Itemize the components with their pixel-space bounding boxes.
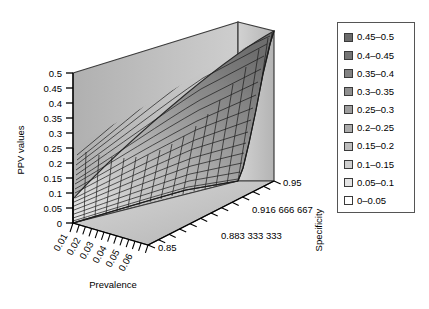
legend-item-label: 0.05–0.1	[357, 178, 394, 188]
legend-swatch-icon	[344, 178, 353, 187]
legend-item[interactable]: 0.25–0.3	[344, 101, 410, 119]
y-tick-label: 0.3	[49, 128, 62, 139]
legend-swatch-icon	[344, 105, 353, 114]
legend-item-label: 0.35–0.4	[357, 69, 394, 79]
z-tick-label: 0.916 666 667	[252, 204, 313, 215]
legend-swatch-icon	[344, 142, 353, 151]
legend-swatch-icon	[344, 160, 353, 169]
legend-swatch-icon	[344, 51, 353, 60]
y-tick-label: 0.35	[44, 113, 63, 124]
y-tick-label: 0.45	[44, 83, 63, 94]
x-axis-title: Prevalence	[89, 279, 137, 290]
y-tick-label: 0.15	[44, 173, 63, 184]
legend-swatch-icon	[344, 87, 353, 96]
y-tick-label: 0.25	[44, 143, 63, 154]
legend-swatch-icon	[344, 69, 353, 78]
legend-item-label: 0.25–0.3	[357, 105, 394, 115]
legend: 0.45–0.5 0.4–0.45 0.35–0.4 0.3–0.35 0.25…	[337, 22, 415, 213]
legend-item-label: 0.4–0.45	[357, 51, 394, 61]
legend-item[interactable]: 0.15–0.2	[344, 137, 410, 155]
chart-page: 0.5 0.45 0.4 0.35 0.3 0.25 0.2 0.15 0.1 …	[0, 0, 429, 309]
legend-item-label: 0.45–0.5	[357, 32, 394, 42]
y-tick-label: 0.4	[49, 98, 62, 109]
legend-item[interactable]: 0.2–0.25	[344, 119, 410, 137]
legend-item[interactable]: 0.05–0.1	[344, 174, 410, 192]
legend-item[interactable]: 0–0.05	[344, 192, 410, 210]
legend-item[interactable]: 0.45–0.5	[344, 28, 410, 46]
y-axis-title: PPV values	[15, 125, 26, 174]
legend-item[interactable]: 0.35–0.4	[344, 64, 410, 82]
legend-item-label: 0.15–0.2	[357, 141, 394, 151]
y-tick-label: 0.2	[49, 158, 62, 169]
legend-item[interactable]: 0.3–0.35	[344, 83, 410, 101]
z-tick-label: 0.95	[283, 177, 302, 188]
y-tick-label: 0.5	[49, 68, 62, 79]
z-tick-label: 0.85	[158, 242, 177, 253]
y-tick-label: 0.1	[49, 188, 62, 199]
legend-item-label: 0–0.05	[357, 196, 386, 206]
z-tick-label: 0.883 333 333	[221, 230, 282, 241]
legend-item-label: 0.1–0.15	[357, 160, 394, 170]
y-axis: 0.5 0.45 0.4 0.35 0.3 0.25 0.2 0.15 0.1 …	[15, 68, 73, 229]
legend-swatch-icon	[344, 196, 353, 205]
legend-swatch-icon	[344, 33, 353, 42]
z-axis-title: Specificity	[313, 208, 324, 251]
legend-swatch-icon	[344, 124, 353, 133]
legend-item-label: 0.3–0.35	[357, 87, 394, 97]
legend-item[interactable]: 0.1–0.15	[344, 155, 410, 173]
legend-item[interactable]: 0.4–0.45	[344, 46, 410, 64]
y-tick-label: 0	[57, 218, 62, 229]
legend-item-label: 0.2–0.25	[357, 123, 394, 133]
y-tick-label: 0.05	[44, 203, 63, 214]
